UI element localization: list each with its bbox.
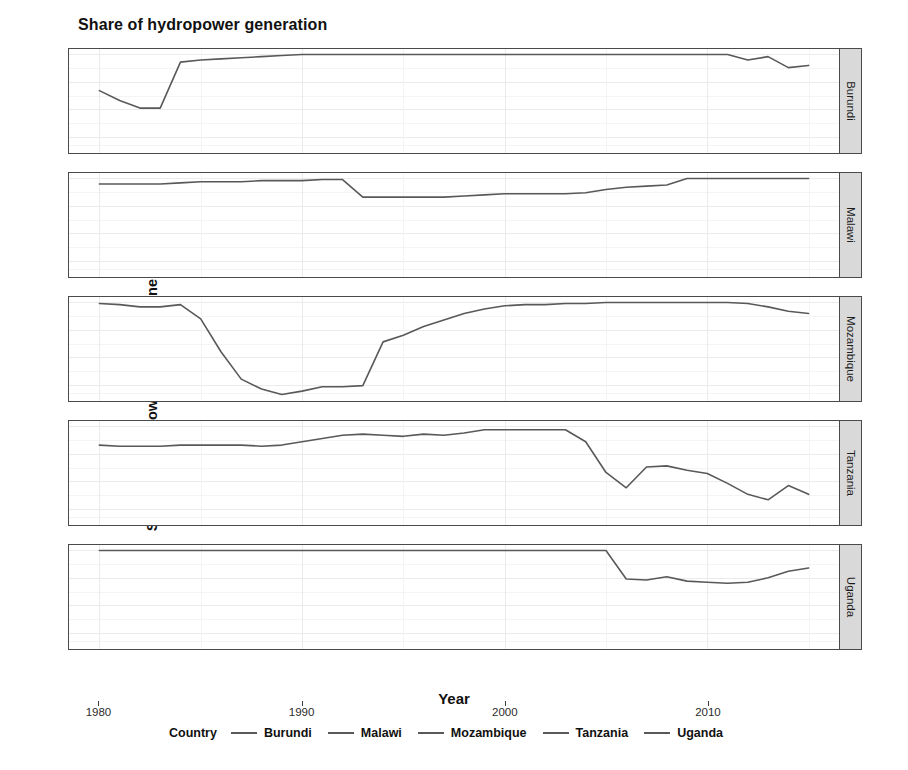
legend-item-label: Tanzania	[576, 726, 629, 740]
legend-line-icon	[543, 732, 569, 734]
facet-panel-malawi: 1.000.750.500.25Malawi	[68, 172, 862, 278]
legend-item-mozambique[interactable]: Mozambique	[418, 726, 527, 740]
facet-strip-label: Malawi	[845, 207, 857, 243]
chart-root: Share of hydropower generation Share of …	[0, 0, 908, 770]
series-line-burundi	[69, 49, 839, 153]
legend-item-label: Uganda	[677, 726, 723, 740]
legend-item-uganda[interactable]: Uganda	[644, 726, 723, 740]
facet-panel-mozambique: 1.000.750.500.25Mozambique	[68, 296, 862, 402]
facet-strip-tanzania: Tanzania	[840, 420, 862, 526]
plot-area-malawi: 1.000.750.500.25	[68, 172, 840, 278]
plot-area-tanzania: 1.000.750.500.25	[68, 420, 840, 526]
facet-strip-mozambique: Mozambique	[840, 296, 862, 402]
legend-item-burundi[interactable]: Burundi	[231, 726, 312, 740]
facet-strip-uganda: Uganda	[840, 544, 862, 650]
plot-area-mozambique: 1.000.750.500.25	[68, 296, 840, 402]
facet-strip-malawi: Malawi	[840, 172, 862, 278]
facet-panel-stack: 1.000.750.500.25Burundi1.000.750.500.25M…	[68, 48, 862, 653]
page-title: Share of hydropower generation	[78, 16, 327, 34]
series-line-mozambique	[69, 297, 839, 401]
legend-line-icon	[328, 732, 354, 734]
facet-strip-label: Uganda	[845, 577, 857, 617]
facet-strip-label: Burundi	[845, 81, 857, 121]
facet-strip-label: Mozambique	[845, 316, 857, 382]
x-tick-label: 2010	[695, 706, 721, 718]
legend-line-icon	[418, 732, 444, 734]
legend-item-label: Mozambique	[451, 726, 527, 740]
plot-area-burundi: 1.000.750.500.25	[68, 48, 840, 154]
legend-item-malawi[interactable]: Malawi	[328, 726, 402, 740]
facet-panel-burundi: 1.000.750.500.25Burundi	[68, 48, 862, 154]
legend-item-label: Malawi	[361, 726, 402, 740]
series-line-uganda	[69, 545, 839, 649]
x-tick-label: 1980	[86, 706, 112, 718]
chart-legend: Country BurundiMalawiMozambiqueTanzaniaU…	[0, 726, 908, 740]
legend-line-icon	[644, 732, 670, 734]
series-line-tanzania	[69, 421, 839, 525]
x-tick-label: 1990	[289, 706, 315, 718]
legend-item-tanzania[interactable]: Tanzania	[543, 726, 629, 740]
x-tick-label: 2000	[492, 706, 518, 718]
facet-panel-uganda: 1.000.750.500.25Uganda	[68, 544, 862, 650]
plot-area-uganda: 1.000.750.500.25	[68, 544, 840, 650]
facet-panel-tanzania: 1.000.750.500.25Tanzania	[68, 420, 862, 526]
facet-strip-burundi: Burundi	[840, 48, 862, 154]
x-axis-title: Year	[0, 690, 908, 707]
series-line-malawi	[69, 173, 839, 277]
facet-strip-label: Tanzania	[845, 450, 857, 496]
legend-item-label: Burundi	[264, 726, 312, 740]
legend-line-icon	[231, 732, 257, 734]
legend-title: Country	[169, 726, 217, 740]
